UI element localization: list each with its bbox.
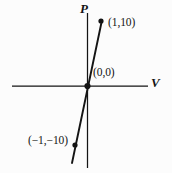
data-point-origin	[84, 83, 90, 89]
data-point-lower	[72, 142, 77, 147]
graph-figure: P V (1,10) (0,0) (−1,−10)	[0, 0, 172, 173]
horizontal-axis-label: V	[151, 76, 160, 89]
point-label-lower: (−1,−10)	[28, 135, 68, 147]
point-label-origin: (0,0)	[93, 67, 115, 79]
point-label-upper: (1,10)	[108, 17, 135, 29]
data-point-upper	[98, 18, 103, 23]
coordinate-plot	[0, 0, 172, 173]
vertical-axis-label: P	[80, 2, 88, 15]
